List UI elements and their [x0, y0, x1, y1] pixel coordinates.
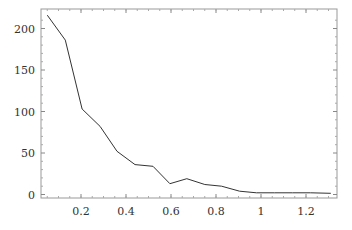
plot-border	[41, 9, 337, 198]
x-tick-label: 0.6	[162, 205, 180, 218]
y-tick-label: 150	[14, 64, 35, 77]
y-tick-label: 200	[14, 23, 35, 36]
plot-frame	[41, 9, 337, 198]
y-tick-label: 100	[14, 106, 35, 119]
x-tick-label: 1	[258, 205, 265, 218]
y-axis: 050100150200	[14, 20, 337, 201]
y-tick-label: 0	[28, 189, 35, 202]
series-line	[47, 15, 331, 193]
line-chart: 050100150200 0.20.40.60.811.2	[0, 0, 352, 230]
x-tick-label: 0.2	[72, 205, 90, 218]
y-tick-label: 50	[21, 147, 35, 160]
x-axis: 0.20.40.60.811.2	[47, 9, 328, 218]
x-tick-label: 0.8	[207, 205, 225, 218]
x-tick-label: 0.4	[117, 205, 135, 218]
x-tick-label: 1.2	[297, 205, 315, 218]
data-series	[47, 15, 331, 193]
